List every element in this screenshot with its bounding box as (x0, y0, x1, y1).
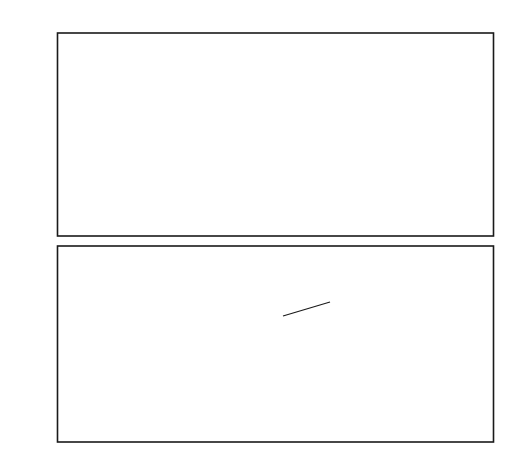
chart-canvas (0, 0, 512, 463)
figure-container (0, 0, 512, 463)
canvas-background (0, 0, 512, 463)
